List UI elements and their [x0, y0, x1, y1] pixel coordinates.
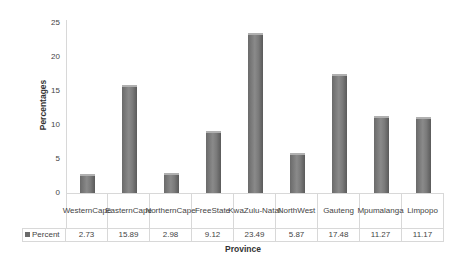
value-cell: 23.49	[234, 228, 276, 241]
value-cell: 2.98	[150, 228, 192, 241]
value-cell: 9.12	[192, 228, 234, 241]
y-tick-label: 20	[38, 52, 60, 61]
bar-mpumalanga	[374, 116, 389, 193]
category-label: Mpumalanga	[360, 194, 402, 228]
bar-north-west	[290, 153, 305, 193]
value-cell: 11.17	[402, 228, 444, 241]
bar-western-cape	[80, 174, 95, 193]
legend-key: Percent	[22, 228, 66, 241]
bar-eastern-cape	[122, 85, 137, 193]
y-tick-label: 15	[38, 86, 60, 95]
category-label: KwaZulu-Natal	[234, 194, 276, 228]
y-tick-label: 25	[38, 18, 60, 27]
category-label: WesternCape	[66, 194, 108, 228]
category-label: Limpopo	[402, 194, 444, 228]
x-axis-label: Province	[200, 244, 286, 254]
category-label: NorthernCape	[150, 194, 192, 228]
value-cell: 15.89	[108, 228, 150, 241]
bar-free-state	[206, 131, 221, 193]
value-cell: 2.73	[66, 228, 108, 241]
bar-northern-cape	[164, 173, 179, 193]
legend-label: Percent	[32, 230, 60, 239]
category-label: Gauteng	[318, 194, 360, 228]
value-cell: 5.87	[276, 228, 318, 241]
y-axis-line	[66, 20, 67, 194]
y-axis-label: Percentages	[38, 60, 48, 150]
category-label: EasternCape	[108, 194, 150, 228]
category-label: NorthWest	[276, 194, 318, 228]
table-rule	[22, 241, 444, 242]
legend-swatch-icon	[25, 232, 30, 237]
bar-gauteng	[332, 74, 347, 193]
y-tick-label: 0	[38, 188, 60, 197]
y-tick-label: 10	[38, 120, 60, 129]
bar-kwazulu-natal	[248, 33, 263, 193]
value-cell: 17.48	[318, 228, 360, 241]
value-cell: 11.27	[360, 228, 402, 241]
bar-limpopo	[416, 117, 431, 193]
y-tick-label: 5	[38, 154, 60, 163]
